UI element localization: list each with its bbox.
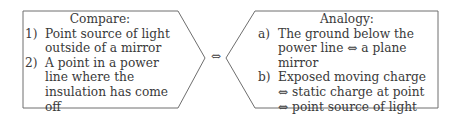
item-marker: b) (258, 70, 278, 114)
item-text: A point in a power line where the insula… (45, 56, 175, 114)
item-text: The ground below the power line ⇔ a plan… (278, 27, 436, 71)
compare-box: Compare: 1) Point source of light outsid… (25, 12, 175, 114)
compare-item: 2) A point in a power line where the ins… (25, 56, 175, 114)
item-marker: a) (258, 27, 278, 71)
item-text: Exposed moving charge ⇔ static charge at… (278, 70, 436, 114)
analogy-title: Analogy: (258, 12, 436, 27)
item-marker: 2) (25, 56, 45, 114)
item-text: Point source of light outside of a mirro… (45, 27, 175, 56)
compare-pointer (178, 11, 205, 108)
analogy-item: a) The ground below the power line ⇔ a p… (258, 27, 436, 71)
analogy-item: b) Exposed moving charge ⇔ static charge… (258, 70, 436, 114)
analogy-box: Analogy: a) The ground below the power l… (258, 12, 436, 114)
compare-item: 1) Point source of light outside of a mi… (25, 27, 175, 56)
double-arrow-icon: ⇔ (208, 49, 224, 63)
analogy-pointer (226, 11, 255, 108)
compare-title: Compare: (25, 12, 175, 27)
item-marker: 1) (25, 27, 45, 56)
